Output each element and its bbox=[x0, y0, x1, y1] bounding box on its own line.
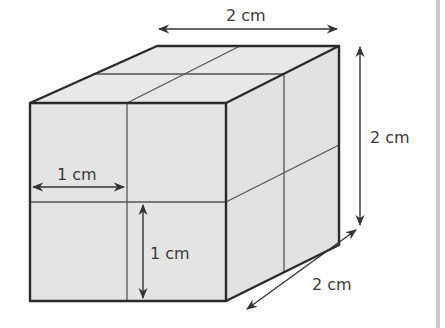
right-height-label: 2 cm bbox=[370, 128, 410, 147]
unit-width-label: 1 cm bbox=[57, 165, 97, 184]
cube-diagram: 2 cm 2 cm 2 cm 1 cm 1 cm bbox=[0, 0, 445, 328]
top-width-label: 2 cm bbox=[226, 6, 266, 25]
depth-label: 2 cm bbox=[312, 275, 352, 294]
unit-height-label: 1 cm bbox=[150, 244, 190, 263]
right-edge-bar bbox=[436, 0, 440, 328]
